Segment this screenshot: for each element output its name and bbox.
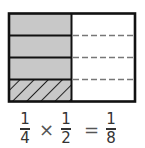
hatched-cell	[9, 80, 71, 101]
fraction-area-model	[0, 0, 145, 110]
shaded-cell-1	[9, 14, 71, 35]
shaded-cell-3	[9, 58, 71, 79]
denominator: 2	[61, 131, 71, 146]
fraction-one-eighth: 1 8	[104, 112, 118, 146]
numerator: 1	[61, 112, 71, 127]
equals-sign: =	[84, 121, 99, 139]
fraction-one-half: 1 2	[59, 112, 73, 146]
denominator: 8	[106, 131, 116, 146]
fraction-one-quarter: 1 4	[18, 112, 32, 146]
numerator: 1	[106, 112, 116, 127]
shaded-cell-2	[9, 36, 71, 57]
numerator: 1	[20, 112, 30, 127]
multiply-sign: ×	[39, 121, 54, 139]
equation: 1 4 × 1 2 = 1 8	[0, 112, 145, 148]
denominator: 4	[20, 131, 30, 146]
